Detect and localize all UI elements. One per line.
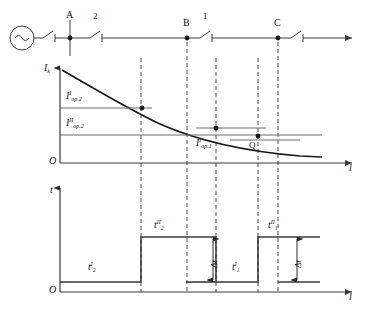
- label-t2-I: tI2: [88, 261, 96, 273]
- label-t1-I: tI1: [232, 261, 240, 273]
- label-point-Q: Q: [249, 141, 256, 150]
- label-I-op2-II: IIIop.2: [66, 117, 84, 129]
- current-x-axis-label: l: [349, 163, 352, 173]
- breaker-label-1: 1: [203, 12, 208, 21]
- short-circuit-current-curve: [62, 70, 322, 157]
- breaker-3[interactable]: [291, 31, 303, 42]
- node-label-C: C: [274, 18, 281, 28]
- label-I-op2-I: IIop.2: [66, 90, 82, 102]
- breaker-1[interactable]: [200, 31, 212, 42]
- label-delta-t-left: Δt: [210, 260, 219, 268]
- current-axis-label: Ik: [44, 63, 50, 74]
- node-B-dot: [185, 36, 190, 41]
- figure-root: A B C 2 1 Ik O l IIop.2 IIIop.2 IIop.1 Q…: [0, 0, 367, 309]
- node-C-dot: [276, 36, 281, 41]
- node-label-A: A: [66, 10, 73, 20]
- node-A-dot: [68, 36, 73, 41]
- current-origin-label: O: [49, 156, 56, 166]
- breaker-label-2: 2: [93, 12, 98, 21]
- intersection-point-2: [214, 126, 219, 131]
- time-axis-label: t: [50, 185, 53, 195]
- node-label-B: B: [183, 18, 190, 28]
- time-step-characteristic: [60, 237, 320, 282]
- time-x-axis-label: l: [349, 292, 352, 302]
- label-t1-II: tII1: [268, 219, 278, 231]
- time-origin-label: O: [49, 285, 56, 295]
- label-I-op1-I: IIop.1: [196, 137, 212, 149]
- breaker-2[interactable]: [90, 31, 102, 42]
- point-Q: [256, 134, 261, 139]
- sine-wave-icon: [15, 36, 29, 41]
- intersection-point-1: [140, 106, 145, 111]
- time-plot: [60, 188, 352, 292]
- label-t2-II: tII2: [154, 219, 164, 231]
- network-diagram: [10, 20, 352, 56]
- label-delta-t-right: Δt: [294, 260, 303, 268]
- breaker-source[interactable]: [43, 31, 55, 42]
